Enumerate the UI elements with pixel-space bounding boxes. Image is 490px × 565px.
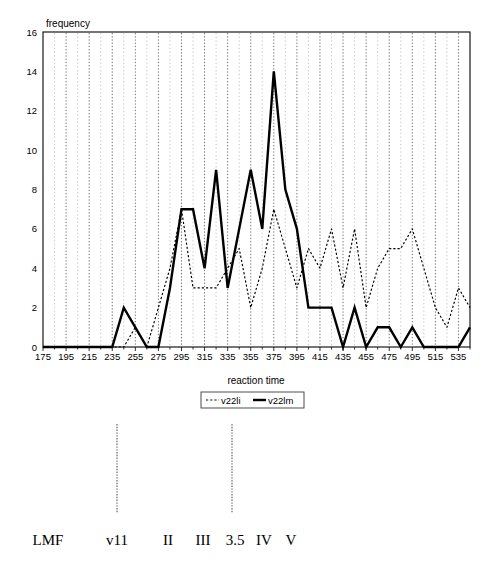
x-tick-label: 495 <box>404 351 420 362</box>
x-tick-label: 515 <box>427 351 443 362</box>
y-tick-label: 2 <box>32 302 37 313</box>
y-tick-label: 16 <box>26 27 37 38</box>
footer-label: v11 <box>106 532 128 548</box>
plot-area <box>43 32 470 351</box>
y-tick-label: 10 <box>26 145 37 156</box>
x-tick-label: 175 <box>35 351 51 362</box>
x-tick-label: 235 <box>104 351 120 362</box>
x-tick-label: 395 <box>289 351 305 362</box>
x-tick-label: 275 <box>150 351 166 362</box>
footer-label: III <box>196 532 211 548</box>
x-tick-label: 355 <box>243 351 259 362</box>
x-tick-label: 255 <box>127 351 143 362</box>
y-tick-label: 6 <box>32 223 37 234</box>
y-tick-label: 4 <box>32 263 37 274</box>
x-tick-label: 295 <box>174 351 190 362</box>
y-tick-label: 12 <box>26 105 37 116</box>
plot-background <box>43 32 470 347</box>
footer-label: IV <box>256 532 272 548</box>
x-tick-label: 195 <box>58 351 74 362</box>
x-tick-label: 415 <box>312 351 328 362</box>
x-tick-label: 375 <box>266 351 282 362</box>
footer-label: V <box>286 532 297 548</box>
y-tick-label: 14 <box>26 66 37 77</box>
x-tick-label: 475 <box>381 351 397 362</box>
frequency-distribution-chart: 0246810121416 frequency 1751952152352552… <box>0 0 490 565</box>
y-tick-label: 8 <box>32 184 37 195</box>
x-tick-label: 215 <box>81 351 97 362</box>
footer-label: II <box>163 532 173 548</box>
x-tick-label: 335 <box>220 351 236 362</box>
footer-label: LMF <box>33 532 64 548</box>
x-tick-label: 435 <box>335 351 351 362</box>
footer-label: 3.5 <box>226 532 245 548</box>
legend-label-v22li: v22li <box>221 395 241 406</box>
x-tick-label: 455 <box>358 351 374 362</box>
y-axis-title: frequency <box>46 18 90 29</box>
x-tick-label: 315 <box>197 351 213 362</box>
x-axis-title: reaction time <box>227 375 285 386</box>
x-tick-label: 535 <box>451 351 467 362</box>
legend-label-v22lm: v22lm <box>268 395 293 406</box>
chart-legend: v22li v22lm <box>201 392 304 408</box>
